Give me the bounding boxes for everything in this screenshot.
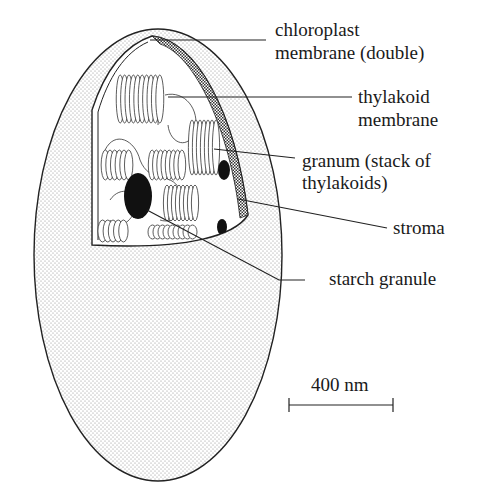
- labels: chloroplast membrane (double) thylakoid …: [275, 19, 445, 289]
- label-starch-granule: starch granule: [329, 268, 436, 289]
- granum: [101, 150, 133, 180]
- label-granum: granum (stack of thylakoids): [302, 150, 435, 194]
- label-chloroplast-membrane: chloroplast membrane (double): [275, 19, 424, 64]
- thylakoid-disc: [178, 150, 186, 180]
- chloroplast-diagram: chloroplast membrane (double) thylakoid …: [0, 0, 480, 489]
- granum: [163, 185, 198, 221]
- thylakoid-disc: [124, 150, 132, 180]
- starch-granule-large: [124, 173, 152, 219]
- thylakoid-disc: [119, 220, 128, 242]
- starch-granule-small: [218, 160, 230, 180]
- scale-bar-label: 400 nm: [311, 374, 369, 395]
- label-stroma: stroma: [393, 217, 445, 238]
- granum: [98, 220, 128, 242]
- label-thylakoid-membrane: thylakoid membrane: [358, 86, 438, 130]
- thylakoid-disc: [156, 75, 164, 123]
- scale-bar: 400 nm: [289, 374, 393, 412]
- granum: [148, 150, 185, 180]
- granum: [116, 75, 164, 123]
- granum: [188, 120, 219, 175]
- thylakoid-disc: [191, 185, 198, 221]
